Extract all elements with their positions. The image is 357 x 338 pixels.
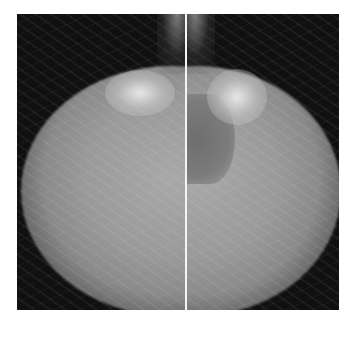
dense-tissue-region — [105, 70, 175, 116]
illegible-caption — [20, 318, 340, 332]
nipple-region — [157, 14, 185, 74]
left-mammogram-panel — [17, 14, 185, 310]
mammogram-figure — [17, 14, 339, 310]
dense-tissue-region — [207, 69, 267, 125]
right-mammogram-panel — [187, 14, 339, 310]
nipple-region — [187, 14, 215, 74]
